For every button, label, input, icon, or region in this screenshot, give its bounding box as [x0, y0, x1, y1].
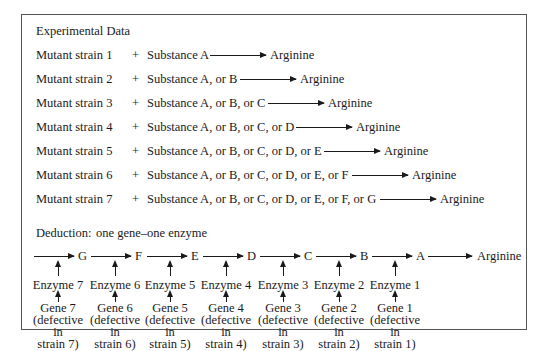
- substances: Substance A, or B, or C, or D, or E, or …: [147, 168, 348, 182]
- strain-label: Mutant strain 4: [36, 120, 112, 134]
- plus-sign: +: [132, 192, 139, 206]
- result: Arginine: [328, 96, 372, 110]
- substances: Substance A: [147, 48, 209, 62]
- strain-label: Mutant strain 5: [36, 144, 112, 158]
- plus-sign: +: [132, 48, 139, 62]
- arrow-icon: [428, 256, 472, 257]
- arrow-icon: [372, 256, 412, 257]
- substances: Substance A, or B, or C, or D, or E, or …: [147, 192, 376, 206]
- intermediate-b: B: [360, 249, 368, 263]
- strain-label: Mutant strain 6: [36, 168, 112, 182]
- plus-sign: +: [132, 144, 139, 158]
- intermediate-g: G: [78, 249, 87, 263]
- up-arrow-icon: [283, 262, 284, 276]
- result: Arginine: [300, 72, 344, 86]
- arrow-icon: [380, 199, 436, 200]
- arrow-icon: [147, 256, 187, 257]
- arrow-icon: [34, 256, 74, 257]
- defect-note: strain 6): [85, 338, 145, 350]
- defect-note: strain 4): [196, 338, 256, 350]
- up-arrow-icon: [339, 262, 340, 276]
- arrow-icon: [268, 103, 324, 104]
- arrow-icon: [203, 256, 243, 257]
- intermediate-a: A: [416, 249, 425, 263]
- up-arrow-icon: [58, 262, 59, 276]
- intermediate-d: D: [247, 249, 256, 263]
- arrow-icon: [260, 256, 300, 257]
- plus-sign: +: [132, 96, 139, 110]
- plus-sign: +: [132, 168, 139, 182]
- arrow-icon: [324, 151, 380, 152]
- arrow-icon: [316, 256, 356, 257]
- substances: Substance A, or B, or C, or D: [147, 120, 294, 134]
- deduction-label: Deduction:: [36, 226, 92, 240]
- plus-sign: +: [132, 72, 139, 86]
- arrow-icon: [210, 55, 266, 56]
- strain-label: Mutant strain 7: [36, 192, 112, 206]
- result: Arginine: [356, 120, 400, 134]
- deduction-text: one gene–one enzyme: [96, 226, 207, 240]
- end-product: Arginine: [477, 249, 521, 263]
- arrow-icon: [91, 256, 131, 257]
- plus-sign: +: [132, 120, 139, 134]
- intermediate-f: F: [135, 249, 142, 263]
- defect-note: strain 3): [253, 338, 313, 350]
- result: Arginine: [270, 48, 314, 62]
- substances: Substance A, or B, or C, or D, or E: [147, 144, 322, 158]
- defect-note: strain 7): [28, 338, 88, 350]
- result: Arginine: [412, 168, 456, 182]
- up-arrow-icon: [170, 262, 171, 276]
- intermediate-e: E: [191, 249, 199, 263]
- substances: Substance A, or B: [147, 72, 237, 86]
- intermediate-c: C: [304, 249, 312, 263]
- arrow-icon: [296, 127, 352, 128]
- result: Arginine: [440, 192, 484, 206]
- strain-label: Mutant strain 1: [36, 48, 112, 62]
- arrow-icon: [352, 175, 408, 176]
- arrow-icon: [240, 79, 296, 80]
- result: Arginine: [384, 144, 428, 158]
- up-arrow-icon: [226, 262, 227, 276]
- up-arrow-icon: [115, 262, 116, 276]
- defect-note: strain 2): [309, 338, 369, 350]
- defect-note: strain 1): [365, 338, 425, 350]
- section-title: Experimental Data: [36, 24, 130, 38]
- strain-label: Mutant strain 2: [36, 72, 112, 86]
- up-arrow-icon: [395, 262, 396, 276]
- defect-note: strain 5): [140, 338, 200, 350]
- substances: Substance A, or B, or C: [147, 96, 265, 110]
- strain-label: Mutant strain 3: [36, 96, 112, 110]
